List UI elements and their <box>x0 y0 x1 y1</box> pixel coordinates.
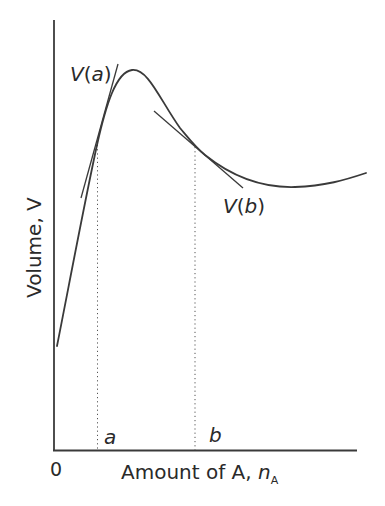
tangent-b-arg: b <box>245 194 258 218</box>
tangent-a-v: V <box>70 62 84 86</box>
tangent-label-a: V(a) <box>70 64 112 84</box>
tangent-a-open: ( <box>84 62 92 86</box>
tangent-b-close: ) <box>257 194 265 218</box>
x-axis-label-sub: A <box>271 474 279 487</box>
origin-label: 0 <box>50 460 62 479</box>
tangent-a-arg: a <box>92 62 104 86</box>
tangent-label-b: V(b) <box>223 196 265 216</box>
tangent-b-open: ( <box>237 194 245 218</box>
tangent-line-b <box>154 111 243 188</box>
x-axis-label-var: n <box>258 460 271 484</box>
y-axis-label: Volume, V <box>24 197 44 298</box>
volume-curve <box>57 70 366 346</box>
mark-b-label: b <box>209 425 222 445</box>
mark-a-label: a <box>104 427 116 447</box>
tangent-b-v: V <box>223 194 237 218</box>
x-axis-label: Amount of A, nA <box>121 462 278 482</box>
tangent-a-close: ) <box>104 62 112 86</box>
chart-canvas <box>0 0 385 506</box>
x-axis-label-main: Amount of A, <box>121 460 258 484</box>
